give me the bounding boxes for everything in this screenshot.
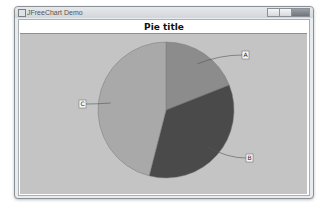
window-controls <box>268 8 310 16</box>
plot-area: ABC <box>20 33 307 194</box>
section-label-b: B <box>247 154 251 161</box>
pie-chart: ABC <box>20 34 307 194</box>
section-label-c: C <box>80 100 84 107</box>
chart-title: Pie title <box>19 22 309 33</box>
chart-panel: Pie title ABC <box>18 19 310 196</box>
title-bar[interactable]: JFreeChart Demo <box>15 7 313 18</box>
app-window: JFreeChart Demo Pie title ABC <box>14 6 314 199</box>
app-icon <box>18 9 26 17</box>
close-button[interactable] <box>291 8 310 17</box>
window-title: JFreeChart Demo <box>27 8 83 17</box>
